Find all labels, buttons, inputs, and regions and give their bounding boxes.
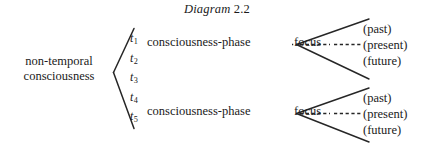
time-point-t2-index: 2 — [134, 57, 138, 66]
time-point-t3-symbol: t — [130, 70, 133, 84]
tense-label-top-past: (past) — [363, 23, 391, 36]
consciousness-phase-label-top: consciousness-phase — [147, 36, 250, 49]
time-point-t3: t3 — [130, 71, 137, 84]
focus-relation-label-bottom: focus — [294, 105, 321, 118]
diagram-title-number: 2.2 — [234, 2, 250, 16]
tense-label-bottom-past: (past) — [363, 92, 391, 105]
time-point-t1: t1 — [130, 32, 137, 45]
time-point-t2-symbol: t — [130, 51, 133, 65]
time-point-t4-symbol: t — [130, 90, 133, 104]
time-point-t1-symbol: t — [130, 31, 133, 45]
consciousness-phase-label-bottom: consciousness-phase — [147, 105, 250, 118]
diagram-title-word: Diagram — [184, 2, 231, 16]
time-point-t1-index: 1 — [134, 37, 138, 46]
time-point-t5: t5 — [130, 110, 137, 123]
time-point-t3-index: 3 — [134, 76, 138, 85]
time-point-t2: t2 — [130, 52, 137, 65]
tense-label-top-present: (present) — [363, 39, 407, 52]
time-point-t5-symbol: t — [130, 109, 133, 123]
top-fan-lower-line — [297, 45, 370, 80]
focus-relation-label-top: focus — [294, 36, 321, 49]
time-point-t5-index: 5 — [134, 115, 138, 124]
root-node-label-line2: consciousness — [8, 69, 110, 84]
diagram-title: Diagram 2.2 — [0, 3, 434, 16]
tense-label-bottom-future: (future) — [363, 124, 401, 137]
root-node-label-line1: non-temporal — [8, 54, 110, 69]
time-point-t4-index: 4 — [134, 96, 138, 105]
time-point-t4: t4 — [130, 91, 137, 104]
tense-label-bottom-present: (present) — [363, 108, 407, 121]
diagram-canvas: Diagram 2.2 non-temporal consciousness t… — [0, 0, 434, 145]
root-node-label: non-temporal consciousness — [8, 54, 110, 85]
tense-label-top-future: (future) — [363, 55, 401, 68]
